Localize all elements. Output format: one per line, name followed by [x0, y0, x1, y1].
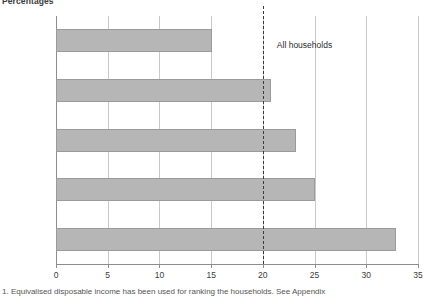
bar: [56, 129, 296, 152]
x-tick-0: [56, 264, 57, 268]
x-tick-label-15: 15: [206, 270, 215, 280]
all-households-reference-line: [263, 6, 264, 264]
x-tick-20: [263, 264, 264, 268]
x-tick-label-30: 30: [362, 270, 371, 280]
x-tick-5: [108, 264, 109, 268]
bar: [56, 228, 396, 251]
bar: [56, 29, 212, 52]
x-tick-30: [366, 264, 367, 268]
chart-footnote: 1. Equivalised disposable income has bee…: [2, 287, 325, 296]
all-households-label: All households: [277, 40, 332, 50]
bar: [56, 178, 315, 201]
x-tick-label-5: 5: [105, 270, 110, 280]
chart-title: Percentages: [2, 0, 54, 6]
x-tick-label-25: 25: [310, 270, 319, 280]
x-tick-35: [418, 264, 419, 268]
x-axis-line: [56, 264, 418, 265]
x-tick-label-35: 35: [413, 270, 422, 280]
bar: [56, 79, 271, 102]
x-tick-25: [315, 264, 316, 268]
x-tick-15: [211, 264, 212, 268]
gridline-35: [418, 16, 419, 264]
x-tick-label-20: 20: [258, 270, 267, 280]
x-tick-10: [159, 264, 160, 268]
x-tick-label-0: 0: [54, 270, 59, 280]
plot-area: 05101520253035 Top fifthNext fifthMiddle…: [56, 16, 418, 264]
x-tick-label-10: 10: [155, 270, 164, 280]
